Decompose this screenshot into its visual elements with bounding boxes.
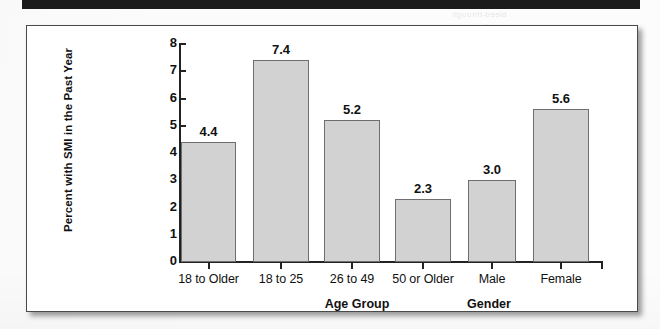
bar (395, 199, 451, 262)
y-axis-tick-label: 6 (170, 90, 177, 105)
y-axis-tick-label: 5 (170, 117, 177, 132)
bar (533, 109, 589, 262)
y-axis-tick-label: 1 (170, 226, 177, 241)
x-axis-tick-mark (601, 263, 603, 269)
x-axis-tick-mark (280, 263, 282, 269)
y-axis-tick-label: 8 (170, 35, 177, 50)
x-axis-tick-mark (351, 263, 353, 269)
x-axis-group-label: Age Group (287, 297, 427, 311)
bar-value-label: 2.3 (395, 181, 451, 196)
bar (324, 120, 380, 262)
bar-value-label: 7.4 (253, 42, 309, 57)
page-canvas: bleed-through faint Percent with SMI in … (0, 0, 660, 329)
x-axis-tick-mark (422, 263, 424, 269)
bar-value-label: 3.0 (468, 162, 516, 177)
x-axis-tick-mark (491, 263, 493, 269)
bar-value-label: 4.4 (181, 124, 236, 139)
x-axis-group-label: Gender (419, 297, 559, 311)
bar (253, 60, 309, 262)
y-axis-tick-label: 0 (170, 253, 177, 268)
bar (468, 180, 516, 262)
chart-figure-frame: Percent with SMI in the Past Year 012345… (26, 25, 638, 312)
bar-value-label: 5.2 (324, 102, 380, 117)
y-axis-tick-label: 3 (170, 171, 177, 186)
bar (181, 142, 236, 262)
bar-value-label: 5.6 (533, 91, 589, 106)
y-axis-tick-label: 4 (170, 144, 177, 159)
y-axis-ticks: 012345678 (147, 44, 179, 263)
plot-area: Percent with SMI in the Past Year 012345… (27, 26, 637, 311)
x-axis-tick-mark (208, 263, 210, 269)
bleedthrough-text-top: bleed-through (452, 10, 507, 19)
y-axis-tick-label: 7 (170, 62, 177, 77)
y-axis-tick-label: 2 (170, 199, 177, 214)
bars-container: 4.47.45.22.33.05.6 (181, 44, 603, 262)
page-header-rule (22, 0, 640, 9)
x-axis-category-label: Female (501, 272, 621, 286)
y-axis-title: Percent with SMI in the Past Year (62, 35, 74, 245)
x-axis-tick-mark (560, 263, 562, 269)
